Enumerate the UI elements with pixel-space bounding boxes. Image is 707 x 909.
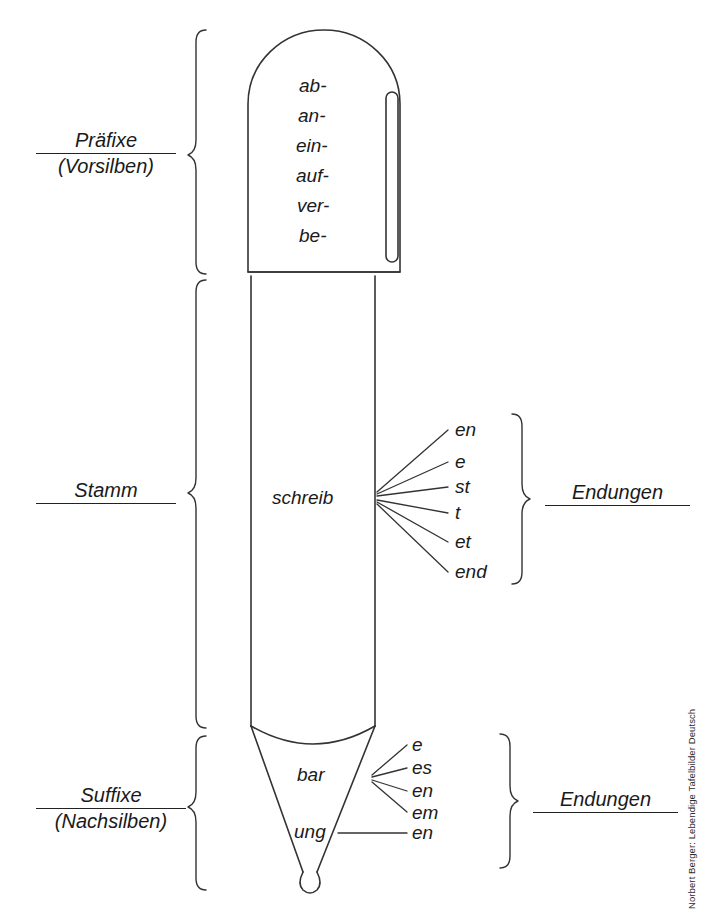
label-endungen-suffix-rule: [533, 812, 678, 813]
label-suffixe: Suffixe (Nachsilben): [36, 785, 186, 832]
pencil-lead-tip: [300, 872, 320, 893]
stem-ending-t: t: [455, 503, 460, 523]
suffix-bar-ending-e: e: [412, 735, 423, 755]
bar-connector-e: [372, 745, 407, 775]
suffix-bar-ending-es: es: [412, 758, 432, 778]
suffix-bar-ending-en: en: [412, 781, 433, 801]
label-endungen-suffix-primary: Endungen: [533, 789, 678, 812]
label-endungen-stamm-rule: [545, 505, 690, 506]
stem-ending-en: en: [455, 420, 476, 440]
suffix-morpheme-bar: bar: [297, 765, 324, 785]
stem-connector-en: [377, 430, 448, 492]
label-endungen-suffix: Endungen: [533, 789, 678, 813]
stem-word: schreib: [272, 488, 333, 508]
prefix-item-auf: auf-: [296, 166, 329, 186]
suffix-ung-ending-en: en: [412, 823, 433, 843]
bar-connector-es: [372, 768, 407, 777]
prefix-item-an: an-: [298, 106, 325, 126]
label-praefixe: Präfixe (Vorsilben): [36, 130, 176, 177]
prefix-item-be: be-: [299, 226, 326, 246]
brace-stamm: [188, 280, 206, 728]
source-credit: Norbert Berger: Lebendige Tafelbilder De…: [686, 709, 697, 909]
label-suffixe-primary: Suffixe: [36, 785, 186, 808]
label-endungen-stamm: Endungen: [545, 482, 690, 506]
stem-connector-t: [377, 500, 448, 513]
label-praefixe-primary: Präfixe: [36, 130, 176, 153]
suffix-bar-connectors: [372, 745, 407, 812]
label-suffixe-secondary: (Nachsilben): [36, 809, 186, 832]
label-stamm-rule: [36, 503, 176, 504]
pencil-cone-right: [317, 726, 375, 872]
stem-ending-connectors: [377, 430, 448, 572]
stem-ending-et: et: [455, 532, 471, 552]
stem-connector-et: [377, 502, 448, 542]
pencil-cone-left: [251, 726, 303, 872]
stem-ending-st: st: [455, 477, 470, 497]
stem-connector-st: [377, 487, 448, 496]
brace-praefixe: [188, 30, 206, 274]
pencil-cone-shoulder: [251, 726, 375, 744]
label-stamm: Stamm: [36, 480, 176, 504]
bar-connector-em: [372, 782, 407, 812]
label-stamm-primary: Stamm: [36, 480, 176, 503]
stem-ending-end: end: [455, 562, 487, 582]
suffix-bar-ending-em: em: [412, 803, 438, 823]
prefix-item-ab: ab-: [299, 76, 326, 96]
suffix-morpheme-ung: ung: [294, 822, 326, 842]
brace-suffixe: [188, 736, 206, 890]
bar-connector-en: [372, 780, 407, 791]
label-praefixe-secondary: (Vorsilben): [36, 154, 176, 177]
brace-endungen-suffix: [500, 734, 518, 868]
pencil-clip: [386, 92, 398, 262]
stem-connector-e: [377, 462, 448, 494]
label-endungen-stamm-primary: Endungen: [545, 482, 690, 505]
stem-connector-end: [377, 504, 448, 572]
stem-ending-e: e: [455, 452, 466, 472]
prefix-item-ein: ein-: [296, 136, 328, 156]
prefix-item-ver: ver-: [297, 196, 329, 216]
brace-endungen-stamm: [512, 414, 530, 584]
